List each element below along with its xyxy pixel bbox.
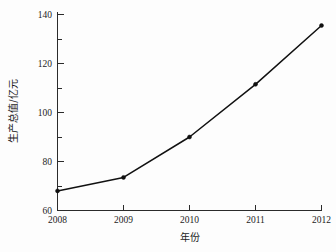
y-tick-label-120: 120 [38, 59, 53, 69]
x-axis-title: 年份 [180, 231, 200, 243]
chart-canvas: 140 120 100 80 60 2008 2009 2010 2011 20… [0, 0, 336, 252]
y-axis-title: 生产总值/亿元 [7, 79, 19, 142]
x-tick-label-2012: 2012 [312, 215, 331, 225]
data-point-2012 [320, 24, 324, 28]
line-chart: 140 120 100 80 60 2008 2009 2010 2011 20… [0, 0, 336, 252]
x-tick-label-2010: 2010 [180, 215, 199, 225]
x-tick-label-2009: 2009 [114, 215, 133, 225]
data-point-2008 [56, 189, 60, 193]
x-tick-label-2008: 2008 [48, 215, 67, 225]
data-point-2009 [122, 175, 126, 179]
x-tick-label-2011: 2011 [246, 215, 265, 225]
y-tick-label-100: 100 [38, 108, 53, 118]
y-tick-label-80: 80 [43, 157, 53, 167]
y-tick-label-140: 140 [38, 10, 53, 20]
data-point-2011 [254, 82, 258, 86]
data-point-2010 [188, 135, 192, 139]
